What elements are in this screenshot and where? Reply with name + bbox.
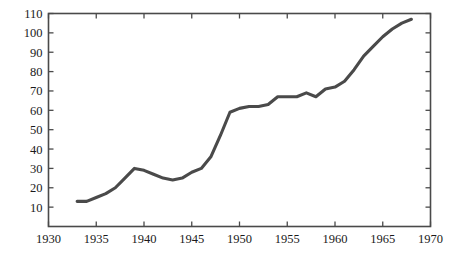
value-tick-label-10: 10 xyxy=(30,201,43,215)
year-tick-label-1930: 1930 xyxy=(36,232,61,246)
year-tick-label-1940: 1940 xyxy=(132,232,157,246)
value-tick-label-80: 80 xyxy=(30,65,43,79)
year-tick-label-1970: 1970 xyxy=(418,232,443,246)
year-tick-label-1955: 1955 xyxy=(275,232,300,246)
chart-canvas: 102030405060708090100110 193019351940194… xyxy=(0,0,453,256)
value-tick-label-60: 60 xyxy=(30,104,43,118)
value-tick-label-30: 30 xyxy=(30,162,43,176)
line-chart: 102030405060708090100110 193019351940194… xyxy=(0,0,453,256)
year-tick-label-1960: 1960 xyxy=(323,232,348,246)
year-axis-labels: 193019351940194519501955196019651970 xyxy=(36,232,443,246)
value-tick-label-50: 50 xyxy=(30,123,43,137)
value-tick-label-110: 110 xyxy=(24,7,42,21)
data-series-group xyxy=(77,19,411,201)
value-tick-label-20: 20 xyxy=(30,181,43,195)
value-tick-label-90: 90 xyxy=(30,46,43,60)
year-tick-label-1950: 1950 xyxy=(227,232,252,246)
value-tick-label-70: 70 xyxy=(30,84,43,98)
year-tick-label-1935: 1935 xyxy=(84,232,109,246)
value-axis-labels: 102030405060708090100110 xyxy=(24,7,43,215)
value-axis-ticks xyxy=(49,14,431,208)
data-line-1 xyxy=(77,19,411,201)
year-tick-label-1945: 1945 xyxy=(179,232,204,246)
year-tick-label-1965: 1965 xyxy=(370,232,395,246)
value-tick-label-40: 40 xyxy=(30,143,43,157)
value-tick-label-100: 100 xyxy=(24,26,43,40)
